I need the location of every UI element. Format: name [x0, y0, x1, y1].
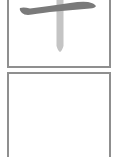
writing-canvas[interactable] [7, 72, 111, 157]
character-demo-box: 十 [7, 0, 111, 68]
